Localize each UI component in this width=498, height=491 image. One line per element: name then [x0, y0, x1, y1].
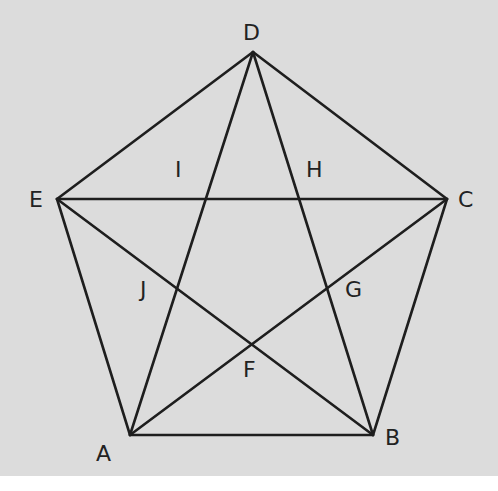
segment-de — [57, 52, 253, 199]
segment-be — [57, 199, 373, 435]
point-label-c: C — [458, 187, 473, 212]
point-label-j: J — [138, 277, 147, 302]
segment-ea — [57, 199, 130, 435]
point-label-a: A — [96, 441, 111, 466]
point-label-d: D — [243, 20, 260, 45]
point-label-g: G — [345, 277, 362, 302]
segment-cd — [253, 52, 447, 199]
point-label-f: F — [243, 357, 256, 382]
point-label-e: E — [29, 187, 43, 212]
segment-ac — [130, 199, 447, 435]
segment-ad — [130, 52, 253, 435]
diagram-canvas: ABCDEFGHIJ — [0, 0, 498, 476]
segment-bc — [373, 199, 447, 435]
point-label-h: H — [306, 157, 323, 182]
segment-bd — [253, 52, 373, 435]
pentagram-diagram: ABCDEFGHIJ — [0, 0, 498, 476]
point-label-b: B — [385, 425, 400, 450]
point-label-i: I — [175, 157, 182, 182]
